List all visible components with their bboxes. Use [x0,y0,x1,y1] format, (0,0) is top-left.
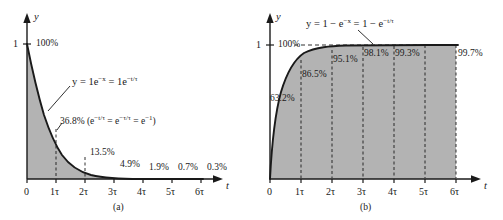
panel-b-x-tick-label-2tau: 2τ [326,187,335,197]
panel-a-x-tick-label-3tau: 3τ [108,187,117,197]
panel-b-percent-99-3: 99.3% [395,49,420,59]
panel-a-x-tick-label-0: 0 [24,187,29,197]
panel-b-percent-100: 100% [278,40,300,50]
exponential-decay-growth-figure: y t 1 100% y = 1e−x = 1e−t/τ 36.8% (e−t/… [0,0,503,220]
panel-b-x-tick-label-5tau: 5τ [419,187,428,197]
panel-b-percent-98-1: 98.1% [364,49,389,59]
panel-b-percent-86-5: 86.5% [302,70,327,80]
panel-a-x-axis-label: t [226,181,229,192]
panel-a-plot [0,0,252,220]
panel-a-percent-0-3: 0.3% [207,163,227,173]
y-axis-arrow [23,13,30,23]
panel-b-growth-chart: y t 1 100% y = 1 − e−x = 1 − e−t/τ 63.2%… [250,0,503,220]
panel-a-equation: y = 1e−x = 1e−t/τ [72,77,138,88]
panel-a-percent-0-7: 0.7% [178,163,198,173]
panel-b-equation: y = 1 − e−x = 1 − e−t/τ [306,19,394,30]
panel-b-x-tick-label-0: 0 [267,187,272,197]
panel-a-caption: (a) [113,203,124,213]
panel-b-x-tick-label-1tau: 1τ [295,187,304,197]
panel-a-y-axis-label: y [34,12,39,23]
panel-b-y-tick-label-1: 1 [256,40,261,50]
panel-b-percent-95-1: 95.1% [333,55,358,65]
panel-b-plot [250,0,503,220]
panel-a-x-tick-label-6tau: 6τ [195,187,204,197]
panel-a-x-tick-label-1tau: 1τ [50,187,59,197]
panel-a-percent-13-5: 13.5% [90,148,115,158]
x-axis-arrow [213,175,223,182]
equation-leader-line [48,86,70,111]
panel-a-y-tick-label-1: 1 [13,39,18,49]
panel-b-y-axis-label: y [276,12,281,23]
x-axis-arrow [471,175,481,182]
panel-a-tau-annotation: 36.8% (e−t/τ = e−τ/τ = e−1) [60,117,156,127]
panel-a-decay-chart: y t 1 100% y = 1e−x = 1e−t/τ 36.8% (e−t/… [0,0,252,220]
decay-area-fill [27,44,201,179]
panel-a-percent-4-9: 4.9% [120,160,140,170]
panel-a-x-tick-label-2tau: 2τ [79,187,88,197]
panel-a-x-tick-label-4tau: 4τ [137,187,146,197]
equation-leader-line [358,30,373,44]
y-axis-arrow [266,13,273,23]
panel-b-percent-99-7: 99.7% [458,49,483,59]
panel-b-x-tick-label-3tau: 3τ [357,187,366,197]
panel-a-percent-100: 100% [36,39,58,49]
panel-a-percent-1-9: 1.9% [149,163,169,173]
panel-b-x-axis-label: t [484,181,487,192]
panel-b-x-tick-label-4tau: 4τ [388,187,397,197]
panel-b-caption: (b) [360,203,371,213]
panel-b-percent-63-2: 63.2% [270,94,295,104]
panel-b-x-tick-label-6tau: 6τ [450,187,459,197]
panel-a-x-tick-label-5tau: 5τ [166,187,175,197]
